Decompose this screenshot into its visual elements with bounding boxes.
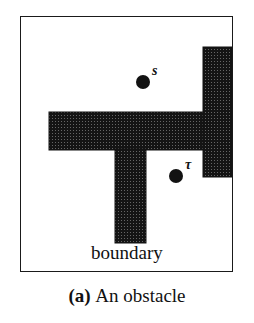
point-label-s: s — [152, 64, 157, 78]
figure-an-obstacle: s τ boundary (a) An obstacle — [0, 0, 254, 323]
caption-index: (a) — [68, 285, 90, 306]
point-marker-s — [136, 75, 150, 89]
caption-text: An obstacle — [95, 285, 185, 306]
boundary-label: boundary — [0, 243, 254, 262]
boundary-rectangle — [20, 16, 233, 272]
figure-caption: (a) An obstacle — [0, 286, 254, 305]
point-label-tau: τ — [185, 158, 191, 172]
point-marker-tau — [169, 169, 183, 183]
